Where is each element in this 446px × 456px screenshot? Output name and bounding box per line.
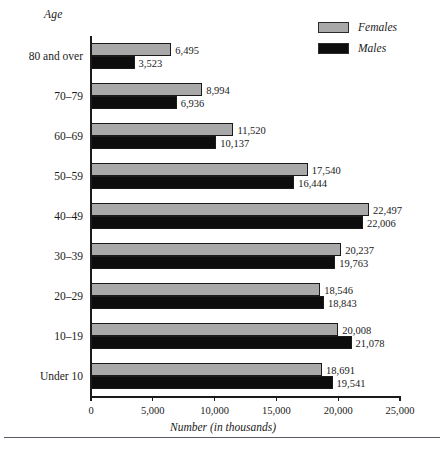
bar-value-label: 3,523 <box>139 57 163 68</box>
bar-row: 16,444 <box>91 176 400 189</box>
bar-value-label: 18,843 <box>328 297 357 308</box>
bar-males <box>91 56 135 69</box>
x-axis-tick-label: 15,000 <box>262 405 291 416</box>
bottom-divider <box>4 437 440 438</box>
bar-group: 60–6911,52010,137 <box>91 123 400 149</box>
y-axis-category-label: 80 and over <box>29 50 83 62</box>
bar-value-label: 22,006 <box>367 217 396 228</box>
bar-value-label: 10,137 <box>220 137 249 148</box>
bar-males <box>91 216 363 229</box>
bar-row: 18,546 <box>91 283 400 296</box>
bar-group: 10–1920,00821,078 <box>91 323 400 349</box>
bar-row: 3,523 <box>91 56 400 69</box>
y-axis-category-label: 60–69 <box>54 130 83 142</box>
bar-group: 40–4922,49722,006 <box>91 203 400 229</box>
bar-row: 21,078 <box>91 336 400 349</box>
bar-value-label: 22,497 <box>373 204 402 215</box>
x-axis-tick <box>338 396 339 401</box>
bar-value-label: 18,546 <box>324 284 353 295</box>
bar-row: 10,137 <box>91 136 400 149</box>
bar-females <box>91 323 338 336</box>
bar-males <box>91 296 324 309</box>
bar-males <box>91 376 333 389</box>
x-axis-line <box>90 396 401 398</box>
bar-females <box>91 203 369 216</box>
bar-value-label: 11,520 <box>237 124 266 135</box>
y-axis-title: Age <box>44 8 62 20</box>
bar-row: 22,497 <box>91 203 400 216</box>
bar-row: 19,763 <box>91 256 400 269</box>
bar-row: 8,994 <box>91 83 400 96</box>
y-axis-category-label: 70–79 <box>54 90 83 102</box>
legend-label-females: Females <box>358 21 397 33</box>
bar-value-label: 20,237 <box>345 244 374 255</box>
bar-group: 20–2918,54618,843 <box>91 283 400 309</box>
bar-females <box>91 283 320 296</box>
x-axis-tick <box>399 396 400 401</box>
bar-group: 30–3920,23719,763 <box>91 243 400 269</box>
x-axis-caption: Number (in thousands) <box>0 421 446 433</box>
x-axis-tick <box>90 396 91 401</box>
bar-group: 80 and over6,4953,523 <box>91 43 400 69</box>
bar-value-label: 19,541 <box>337 377 366 388</box>
bar-value-label: 21,078 <box>356 337 385 348</box>
legend-swatch-females-icon <box>318 22 349 33</box>
bar-row: 18,691 <box>91 363 400 376</box>
bar-row: 20,237 <box>91 243 400 256</box>
x-axis-tick-label: 25,000 <box>386 405 415 416</box>
y-axis-category-label: 50–59 <box>54 170 83 182</box>
x-axis-tick-label: 0 <box>88 405 93 416</box>
bar-row: 11,520 <box>91 123 400 136</box>
population-by-age-bar-chart: Age Females Males 05,00010,00015,00020,0… <box>0 0 446 456</box>
x-axis-tick <box>214 396 215 401</box>
bar-males <box>91 176 294 189</box>
x-axis-tick-label: 5,000 <box>141 405 165 416</box>
bar-value-label: 16,444 <box>298 177 327 188</box>
bar-males <box>91 336 352 349</box>
y-axis-category-label: 20–29 <box>54 290 83 302</box>
bar-row: 22,006 <box>91 216 400 229</box>
x-axis-tick-label: 20,000 <box>324 405 353 416</box>
bar-value-label: 19,763 <box>339 257 368 268</box>
bar-males <box>91 136 216 149</box>
bar-row: 17,540 <box>91 163 400 176</box>
legend-item-females: Females <box>318 19 438 35</box>
bar-row: 6,936 <box>91 96 400 109</box>
y-axis-category-label: Under 10 <box>40 370 83 382</box>
bar-group: 50–5917,54016,444 <box>91 163 400 189</box>
bar-females <box>91 363 322 376</box>
bar-females <box>91 163 308 176</box>
y-axis-category-label: 40–49 <box>54 210 83 222</box>
x-axis-tick-label: 10,000 <box>200 405 229 416</box>
bar-group: Under 1018,69119,541 <box>91 363 400 389</box>
x-axis-tick <box>276 396 277 401</box>
bar-group: 70–798,9946,936 <box>91 83 400 109</box>
plot-area: 05,00010,00015,00020,00025,00080 and ove… <box>91 36 400 396</box>
bar-row: 20,008 <box>91 323 400 336</box>
bar-value-label: 6,495 <box>175 44 199 55</box>
bar-row: 6,495 <box>91 43 400 56</box>
bar-value-label: 18,691 <box>326 364 355 375</box>
bar-row: 19,541 <box>91 376 400 389</box>
bar-value-label: 8,994 <box>206 84 230 95</box>
y-axis-category-label: 10–19 <box>54 330 83 342</box>
bar-row: 18,843 <box>91 296 400 309</box>
bar-females <box>91 43 171 56</box>
bar-females <box>91 83 202 96</box>
bar-males <box>91 96 177 109</box>
bar-females <box>91 243 341 256</box>
bar-females <box>91 123 233 136</box>
x-axis-tick <box>152 396 153 401</box>
bar-males <box>91 256 335 269</box>
y-axis-category-label: 30–39 <box>54 250 83 262</box>
bar-value-label: 17,540 <box>312 164 341 175</box>
bar-value-label: 20,008 <box>342 324 371 335</box>
bar-value-label: 6,936 <box>181 97 205 108</box>
